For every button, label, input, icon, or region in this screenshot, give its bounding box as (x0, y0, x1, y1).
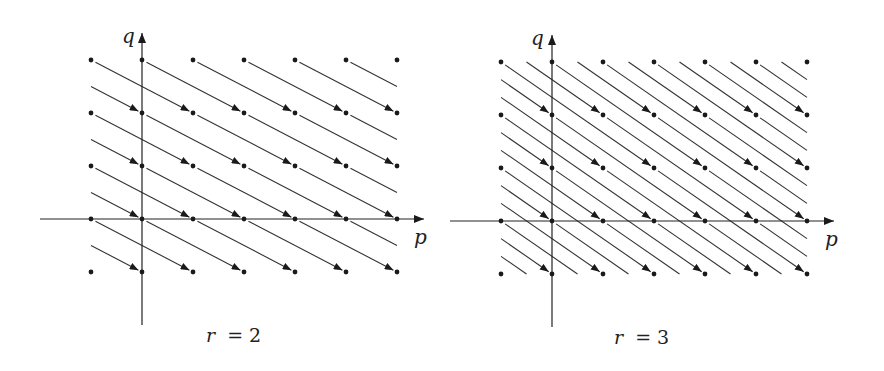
lattice-dot (191, 217, 196, 222)
lattice-dot (140, 111, 145, 116)
axes (40, 33, 424, 325)
line-segment (350, 168, 397, 192)
lattice-dot (805, 219, 810, 224)
arrow-segment (197, 168, 291, 217)
arrow-segment (501, 186, 549, 219)
lattice-dot (191, 111, 196, 116)
lattice-dot (601, 166, 606, 171)
lattice-dot (550, 60, 555, 65)
lattice-dot (395, 164, 400, 169)
lattice-dot (652, 272, 657, 277)
lattice-dot (499, 272, 504, 277)
caption-value: = 3 (635, 326, 669, 348)
p-axis-label: p (825, 227, 838, 251)
arrow-segment (299, 62, 393, 111)
panel-caption: r = 2 (206, 324, 261, 346)
line-segment (782, 62, 808, 80)
lattice-dot (344, 217, 349, 222)
arrow-segment (501, 203, 600, 271)
lattice-dot (550, 113, 555, 118)
lattice-dot (805, 113, 810, 118)
lattice-dot (293, 58, 298, 63)
lattice-dot (652, 166, 657, 171)
line-segment (350, 221, 397, 245)
lattice-dot (601, 272, 606, 277)
lattice-dot (652, 60, 657, 65)
lattice-dot (89, 111, 94, 116)
line-segment (760, 65, 807, 97)
lattice-dot (703, 272, 708, 277)
arrow-segment (501, 133, 549, 166)
lattice-dot (754, 60, 759, 65)
lattice-dot (754, 113, 759, 118)
lattice-dot (499, 219, 504, 224)
arrow-segment (248, 62, 342, 111)
arrow-segment (299, 115, 393, 164)
lattice-dot (242, 217, 247, 222)
lattice-dot (89, 58, 94, 63)
arrow-segment (91, 246, 138, 271)
arrow-segment (91, 193, 138, 218)
lattice-dot (754, 272, 759, 277)
arrow-segment (91, 140, 138, 165)
axes (450, 35, 834, 327)
lattice-dot (703, 113, 708, 118)
lattice-dot (499, 166, 504, 171)
lattice-dot (499, 113, 504, 118)
arrow-segment (197, 62, 291, 111)
arrow-segment (197, 221, 291, 270)
arrow-segment (146, 168, 240, 217)
lattice-dot (499, 60, 504, 65)
lattice-dot (703, 166, 708, 171)
q-axis-label: q (122, 24, 135, 48)
lattice-dot (601, 60, 606, 65)
lattice-dot (293, 111, 298, 116)
lattice-dot (242, 111, 247, 116)
arrow-segment (501, 239, 549, 272)
lattice-dot (89, 164, 94, 169)
lattice-dot (395, 217, 400, 222)
lattice-dot (652, 219, 657, 224)
line-segment (709, 118, 807, 186)
lattice-dot (191, 58, 196, 63)
lattice-dot (395, 270, 400, 275)
caption-value: = 2 (227, 324, 261, 346)
caption-variable: r (206, 324, 217, 346)
lattice-dot (703, 60, 708, 65)
lattice-dot (344, 58, 349, 63)
lattice-dot (140, 164, 145, 169)
line-segment (709, 171, 807, 239)
lattice-dot (550, 219, 555, 224)
panel-r-equals-3: p q r = 3 (450, 26, 838, 348)
arrow-segment (146, 115, 240, 164)
lattice-dot (344, 164, 349, 169)
lattice-dot (754, 219, 759, 224)
q-axis-label: q (531, 26, 544, 50)
line-segment (760, 171, 807, 203)
line-segment (709, 65, 807, 133)
lattice-dot (242, 58, 247, 63)
p-axis-label: p (414, 225, 427, 249)
lattice-dot (293, 270, 298, 275)
arrow-segment (248, 168, 342, 217)
lattice-dot (601, 219, 606, 224)
arrow-segment (146, 62, 240, 111)
lattice-dot (140, 217, 145, 222)
lattice-dot (344, 270, 349, 275)
arrow-segment (248, 221, 342, 270)
lattice-dot (805, 272, 810, 277)
lattice-dot (395, 111, 400, 116)
lattice-dot (293, 217, 298, 222)
lattice-dot (191, 270, 196, 275)
lattice-dot (89, 270, 94, 275)
lattice-dot (344, 111, 349, 116)
arrow-segment (299, 168, 393, 217)
panel-caption: r = 3 (614, 326, 669, 348)
lattice-dot (242, 164, 247, 169)
arrow-segment (299, 221, 393, 270)
panel-r-equals-2: p q r = 2 (40, 24, 427, 346)
arrow-segment (197, 115, 291, 164)
lattice-dot (89, 217, 94, 222)
line-segment (760, 224, 807, 256)
line-segment (350, 115, 397, 139)
